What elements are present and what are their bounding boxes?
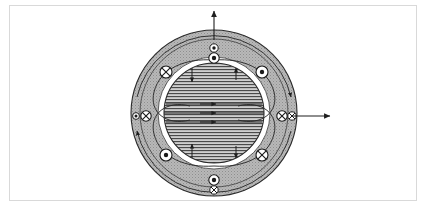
- conductor-left-outer-dot: [133, 113, 140, 120]
- conductor-bottom-outer-dot: [209, 175, 219, 185]
- conductor-top-inner-dot: [209, 53, 219, 63]
- conductor-top-left-cross: [160, 66, 172, 78]
- conductor-left-inner-cross: [141, 111, 151, 121]
- conductor-bottom-inner-cross: [210, 186, 218, 194]
- conductor-bottom-left-dot: [160, 149, 172, 161]
- conductor-top-outer-dot: [210, 44, 218, 52]
- machine-cross-section-diagram: [0, 0, 428, 222]
- conductor-bottom-right-cross: [256, 149, 268, 161]
- conductor-top-right-dot: [256, 66, 268, 78]
- conductor-right-inner-cross: [277, 111, 287, 121]
